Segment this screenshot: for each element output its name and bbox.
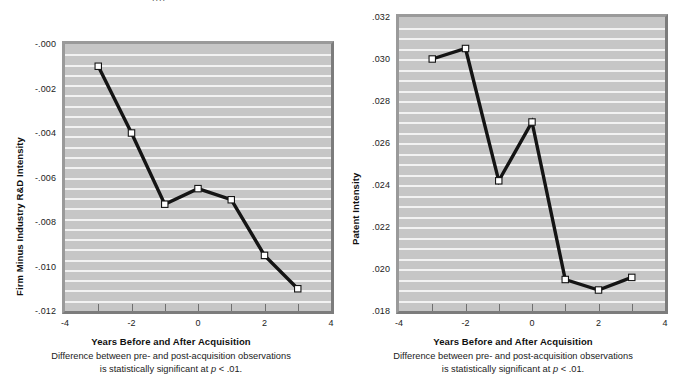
x-axis-tick xyxy=(132,304,133,311)
chart-note-prefix: is statistically significant at xyxy=(442,364,553,374)
series-line-right xyxy=(432,49,632,291)
data-point-marker xyxy=(261,252,267,258)
x-axis-tick-label: 0 xyxy=(517,318,547,328)
data-point-marker xyxy=(496,178,502,184)
x-axis-title-left: Years Before and After Acquisition xyxy=(0,336,342,347)
x-axis-tick xyxy=(466,304,467,311)
y-axis-tick-label: .020 xyxy=(350,264,390,274)
chart-note-line-2: is statistically significant at p < .01. xyxy=(342,363,684,376)
x-axis-tick-label: 2 xyxy=(250,318,280,328)
chart-note-suffix: < .01. xyxy=(216,364,242,374)
y-axis-tick-label: .026 xyxy=(350,138,390,148)
data-point-marker xyxy=(629,274,635,280)
x-axis-tick xyxy=(231,304,232,311)
y-axis-tick-label: .022 xyxy=(350,222,390,232)
chart-note-suffix: < .01. xyxy=(558,364,584,374)
x-axis-tick xyxy=(198,304,199,311)
data-point-marker xyxy=(195,185,201,191)
series-svg-right xyxy=(399,17,665,311)
x-axis-tick xyxy=(432,304,433,311)
data-point-marker xyxy=(429,56,435,62)
x-axis-tick xyxy=(632,304,633,311)
y-axis-tick-label: .032 xyxy=(350,12,390,22)
plot-area-right xyxy=(396,14,668,314)
data-point-marker xyxy=(128,130,134,136)
data-point-marker xyxy=(595,287,601,293)
chart-panel-rd-intensity: Firm Minus Industry R&D Intensity Years … xyxy=(0,0,342,379)
y-axis-tick-label: .030 xyxy=(350,54,390,64)
chart-note-line-2: is statistically significant at p < .01. xyxy=(0,363,342,376)
x-axis-tick-label: 0 xyxy=(183,318,213,328)
chart-panel-patent-intensity: Patent Intensity Years Before and After … xyxy=(342,0,684,379)
y-axis-tick-label: .028 xyxy=(350,96,390,106)
x-axis-tick xyxy=(499,304,500,311)
y-axis-tick-label: .018 xyxy=(350,306,390,316)
y-axis-tick-label: -.000 xyxy=(16,39,56,49)
series-svg-left xyxy=(65,44,331,311)
x-axis-tick xyxy=(565,304,566,311)
data-point-marker xyxy=(228,197,234,203)
x-axis-tick xyxy=(98,304,99,311)
y-axis-tick-label: -.004 xyxy=(16,128,56,138)
x-axis-title-right: Years Before and After Acquisition xyxy=(342,336,684,347)
figure-root: Firm Minus Industry R&D Intensity Years … xyxy=(0,0,684,379)
chart-note-right: Difference between pre- and post-acquisi… xyxy=(342,350,684,375)
chart-note-line-1: Difference between pre- and post-acquisi… xyxy=(0,350,342,363)
y-axis-tick-label: -.012 xyxy=(16,306,56,316)
chart-note-left: Difference between pre- and post-acquisi… xyxy=(0,350,342,375)
x-axis-tick-label: 4 xyxy=(650,318,680,328)
data-point-marker xyxy=(95,63,101,69)
x-axis-tick-label: -4 xyxy=(50,318,80,328)
x-axis-tick xyxy=(265,304,266,311)
chart-note-prefix: is statistically significant at xyxy=(100,364,211,374)
data-point-marker xyxy=(462,45,468,51)
x-axis-tick xyxy=(298,304,299,311)
data-point-marker xyxy=(562,276,568,282)
x-axis-tick xyxy=(165,304,166,311)
data-point-marker xyxy=(529,119,535,125)
plot-area-left xyxy=(62,41,334,314)
y-axis-tick-label: -.006 xyxy=(16,173,56,183)
x-axis-tick-label: -2 xyxy=(117,318,147,328)
chart-note-line-1: Difference between pre- and post-acquisi… xyxy=(342,350,684,363)
y-axis-tick-label: -.002 xyxy=(16,84,56,94)
data-point-marker xyxy=(162,201,168,207)
x-axis-tick-label: 2 xyxy=(584,318,614,328)
x-axis-tick xyxy=(532,304,533,311)
x-axis-tick-label: -4 xyxy=(384,318,414,328)
y-axis-tick-label: -.010 xyxy=(16,262,56,272)
data-point-marker xyxy=(295,286,301,292)
series-markers-right xyxy=(429,45,635,293)
y-axis-tick-label: -.008 xyxy=(16,217,56,227)
x-axis-tick-label: -2 xyxy=(451,318,481,328)
series-markers-left xyxy=(95,63,301,292)
y-axis-tick-label: .024 xyxy=(350,180,390,190)
x-axis-tick xyxy=(599,304,600,311)
